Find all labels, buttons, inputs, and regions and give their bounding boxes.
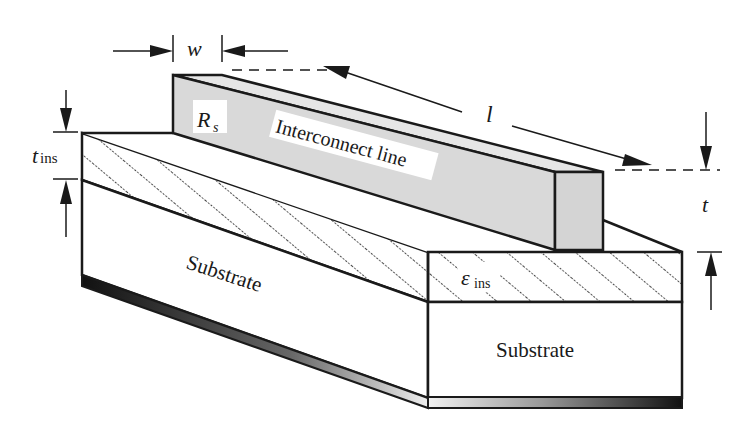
interconnect-diagram: w l t t ins R s Interconnec (0, 0, 746, 426)
width-dimension: w (113, 35, 288, 62)
svg-text:ε: ε (461, 265, 470, 290)
arrow-down-icon (700, 146, 712, 170)
thickness-dimension: t (697, 112, 722, 310)
svg-text:R: R (196, 107, 211, 132)
arrow-upleft-icon (323, 66, 350, 79)
substrate-front-label: Substrate (496, 338, 574, 362)
arrow-right-icon (150, 45, 173, 57)
arrow-downright-icon (622, 154, 652, 166)
insulator-thickness-label: t (32, 143, 39, 168)
svg-text:s: s (213, 120, 219, 135)
thickness-label: t (702, 192, 709, 217)
insulator-thickness-subscript: ins (40, 150, 58, 166)
svg-text:ins: ins (474, 276, 490, 291)
arrow-down-icon (60, 108, 72, 132)
insulator-thickness-dimension: t ins (32, 90, 78, 237)
width-label: w (187, 36, 202, 61)
sheet-resistance-label: R s (193, 100, 227, 135)
length-label: l (486, 101, 493, 127)
arrow-left-icon (222, 45, 245, 57)
